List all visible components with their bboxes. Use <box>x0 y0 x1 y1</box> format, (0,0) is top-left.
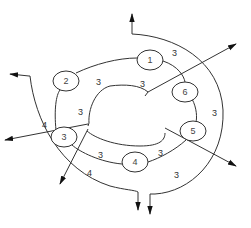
inner-ring <box>87 85 165 146</box>
node-1: 1 <box>137 50 163 70</box>
ring-1-6 <box>163 61 185 82</box>
edge-label: 3 <box>140 79 145 89</box>
node-2: 2 <box>53 71 79 91</box>
node-4: 4 <box>122 152 148 172</box>
node-3: 3 <box>51 127 77 147</box>
upper-left-arrow <box>10 74 29 76</box>
ring-2-1 <box>76 58 137 73</box>
node-2-label: 2 <box>63 76 68 86</box>
node-1-label: 1 <box>147 55 152 65</box>
edge-label: 3 <box>212 108 217 118</box>
ring-5-4 <box>148 140 186 162</box>
ring-6-5 <box>192 99 197 122</box>
node-3-label: 3 <box>61 132 66 142</box>
network-diagram: 1 2 3 4 5 6 3 3 3 3 4 3 3 4 3 3 <box>0 0 251 228</box>
edge-label: 3 <box>96 77 101 87</box>
node-5: 5 <box>180 121 206 141</box>
node-5-label: 5 <box>190 126 195 136</box>
edge-label: 3 <box>78 107 83 117</box>
edge-label: 3 <box>98 150 103 160</box>
node-6: 6 <box>172 82 198 102</box>
edge-label: 3 <box>174 170 179 180</box>
edge-label: 4 <box>42 120 47 130</box>
node-4-label: 4 <box>132 157 137 167</box>
edge-label: 3 <box>158 148 163 158</box>
outer-arc-left <box>29 76 138 210</box>
edge-label: 3 <box>172 48 177 58</box>
ring-4-3 <box>72 145 122 164</box>
edge-label: 4 <box>87 168 92 178</box>
node-6-label: 6 <box>182 87 187 97</box>
ring-3-2 <box>55 90 60 130</box>
